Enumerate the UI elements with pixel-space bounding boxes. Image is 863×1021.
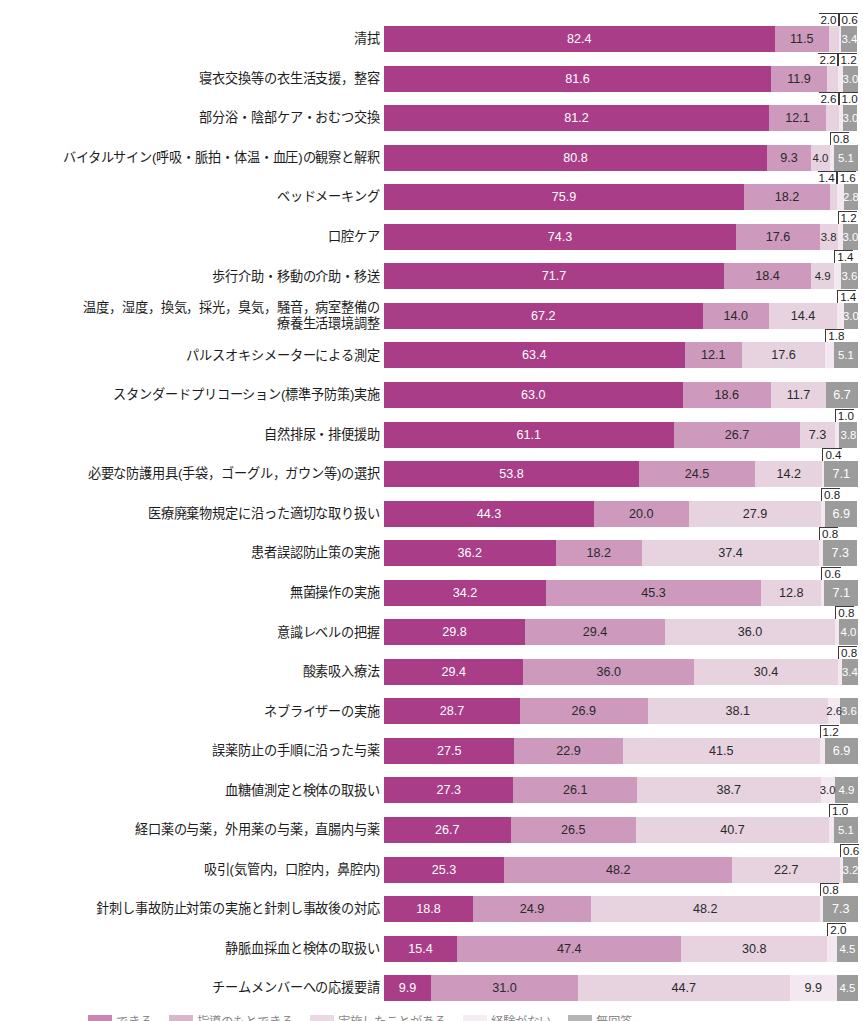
segment-value: 4.9	[815, 270, 831, 282]
segment-value: 48.2	[606, 863, 631, 877]
bar-segment-4: 5.1	[834, 145, 858, 171]
stacked-bar-chart: 清拭82.411.52.00.63.4寝衣交換等の衣生活支援，整容81.611.…	[0, 0, 863, 1021]
bar-segment-0: 67.2	[384, 303, 703, 329]
bar-segment-2: 38.1	[648, 698, 829, 724]
bar-segment-0: 26.7	[384, 817, 511, 843]
segment-value: 4.0	[813, 152, 829, 164]
bar-segment-4: 3.0	[844, 303, 858, 329]
segment-value: 2.6	[826, 705, 842, 717]
bar-segment-4: 3.4	[842, 659, 858, 685]
stacked-bar: 9.931.044.79.94.5	[384, 975, 858, 1001]
category-label: 口腔ケア	[0, 224, 380, 250]
chart-row: スタンダードプリコーション(標準予防策)実施63.018.611.76.7	[0, 376, 863, 416]
bar-segment-4: 3.2	[843, 857, 858, 883]
segment-value: 38.1	[726, 704, 751, 718]
segment-value: 37.4	[718, 546, 743, 560]
segment-value: 20.0	[629, 507, 654, 521]
segment-value: 3.6	[842, 270, 858, 282]
bar-segment-1: 36.0	[523, 659, 694, 685]
segment-value: 3.0	[820, 784, 836, 796]
segment-value: 29.4	[583, 625, 608, 639]
category-label: 歩行介助・移動の介助・移送	[0, 263, 380, 289]
segment-value: 7.3	[831, 546, 849, 560]
bar-segment-1: 31.0	[431, 975, 578, 1001]
bar-segment-2: 30.4	[694, 659, 838, 685]
bar-segment-2: 4.0	[811, 145, 830, 171]
category-label: 誤薬防止の手順に沿った与薬	[0, 738, 380, 764]
stacked-bar: 53.824.514.20.47.1	[384, 461, 858, 487]
segment-value: 81.6	[565, 72, 590, 86]
category-label: 清拭	[0, 26, 380, 52]
segment-value: 26.9	[572, 704, 597, 718]
chart-row: 針刺し事故防止対策の実施と針刺し事故後の対応18.824.948.20.87.3	[0, 890, 863, 930]
bar-segment-4: 2.8	[844, 184, 857, 210]
category-label: 自然排尿・排便援助	[0, 422, 380, 448]
bar-segment-1: 14.0	[703, 303, 769, 329]
bar-segment-0: 36.2	[384, 540, 556, 566]
bar-segment-0: 34.2	[384, 580, 546, 606]
bar-segment-0: 82.4	[384, 26, 775, 52]
bar-segment-3: 9.9	[790, 975, 837, 1001]
chart-row: 部分浴・陰部ケア・おむつ交換81.212.12.61.03.0	[0, 99, 863, 139]
chart-row: 意識レベルの把握29.829.436.00.84.0	[0, 613, 863, 653]
category-label: ベッドメーキング	[0, 184, 380, 210]
bar-segment-0: 28.7	[384, 698, 520, 724]
bar-segment-1: 24.9	[473, 896, 591, 922]
chart-row: ネブライザーの実施28.726.938.12.63.6	[0, 692, 863, 732]
bar-segment-2: 2.0	[829, 26, 838, 52]
bar-segment-2: 48.2	[591, 896, 819, 922]
chart-row: 吸引(気管内，口腔内，鼻腔内)25.348.222.70.63.2	[0, 851, 863, 891]
category-label: 針刺し事故防止対策の実施と針刺し事故後の対応	[0, 896, 380, 922]
bar-segment-0: 9.9	[384, 975, 431, 1001]
segment-value: 28.7	[440, 704, 465, 718]
segment-value: 4.0	[841, 626, 857, 638]
bar-segment-2: 2.6	[826, 105, 838, 131]
bar-segment-2: 2.2	[827, 66, 837, 92]
segment-value: 27.5	[437, 744, 462, 758]
bar-segment-4: 3.4	[841, 26, 857, 52]
segment-value: 25.3	[432, 863, 457, 877]
bar-segment-0: 25.3	[384, 857, 504, 883]
segment-value: 30.4	[754, 665, 779, 679]
chart-row: パルスオキシメーターによる測定63.412.117.61.85.1	[0, 336, 863, 376]
bar-segment-3: 1.8	[825, 342, 834, 368]
stacked-bar: 71.718.44.91.43.6	[384, 263, 858, 289]
segment-value: 44.3	[477, 507, 502, 521]
bar-segment-0: 63.0	[384, 382, 683, 408]
segment-value: 9.9	[399, 981, 417, 995]
stacked-bar: 44.320.027.90.86.9	[384, 501, 858, 527]
bar-segment-3: 1.4	[834, 263, 841, 289]
stacked-bar: 75.918.21.41.62.8	[384, 184, 858, 210]
segment-value: 26.5	[561, 823, 586, 837]
bar-segment-2: 4.9	[811, 263, 834, 289]
category-label: 医療廃棄物規定に沿った適切な取り扱い	[0, 501, 380, 527]
stacked-bar: 82.411.52.00.63.4	[384, 26, 858, 52]
stacked-bar: 67.214.014.41.43.0	[384, 303, 858, 329]
bar-segment-4: 3.0	[843, 66, 857, 92]
legend-label: 指導のもとできる	[197, 1012, 293, 1021]
segment-value: 82.4	[567, 32, 592, 46]
segment-value: 67.2	[531, 309, 556, 323]
legend-label: 無回答	[596, 1012, 632, 1021]
bar-segment-0: 18.8	[384, 896, 473, 922]
bar-segment-2: 11.7	[771, 382, 826, 408]
segment-value: 5.1	[838, 152, 854, 164]
bar-segment-1: 9.3	[767, 145, 811, 171]
stacked-bar: 29.436.030.40.83.4	[384, 659, 858, 685]
segment-value: 18.8	[416, 902, 441, 916]
segment-value: 17.6	[766, 230, 791, 244]
segment-value: 9.3	[780, 151, 798, 165]
bar-segment-0: 15.4	[384, 936, 457, 962]
segment-value: 18.4	[755, 269, 780, 283]
bar-segment-4: 5.1	[834, 342, 858, 368]
stacked-bar: 36.218.237.40.87.3	[384, 540, 858, 566]
bar-segment-1: 18.6	[683, 382, 771, 408]
segment-value: 5.1	[838, 349, 854, 361]
bar-segment-4: 3.8	[839, 422, 857, 448]
bar-segment-2: 12.8	[761, 580, 822, 606]
segment-value: 11.5	[790, 32, 814, 46]
segment-value: 3.4	[842, 33, 858, 45]
bar-segment-2: 17.6	[742, 342, 825, 368]
segment-value: 63.0	[521, 388, 546, 402]
bar-segment-1: 24.5	[639, 461, 755, 487]
